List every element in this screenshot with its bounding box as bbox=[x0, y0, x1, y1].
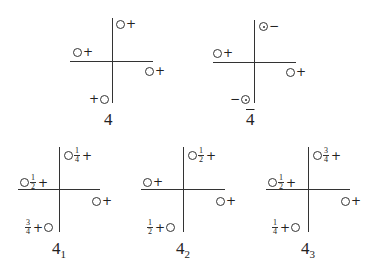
fraction: 34 bbox=[323, 147, 329, 164]
panel-4-3: 34 + 12 + + 14 + 43 bbox=[0, 0, 379, 271]
open-circle-icon bbox=[313, 151, 322, 160]
panel-label: 43 bbox=[301, 240, 315, 260]
fraction: 14 bbox=[272, 219, 278, 236]
mark-lower-right: + bbox=[341, 195, 362, 207]
open-circle-icon bbox=[291, 223, 300, 232]
mark-upper-left: 12 + bbox=[268, 174, 297, 191]
fraction: 12 bbox=[278, 174, 284, 191]
open-circle-icon bbox=[341, 197, 350, 206]
open-circle-icon bbox=[268, 178, 277, 187]
mark-lower-left: 14 + bbox=[271, 219, 300, 236]
mark-upper-right: 34 + bbox=[313, 147, 342, 164]
